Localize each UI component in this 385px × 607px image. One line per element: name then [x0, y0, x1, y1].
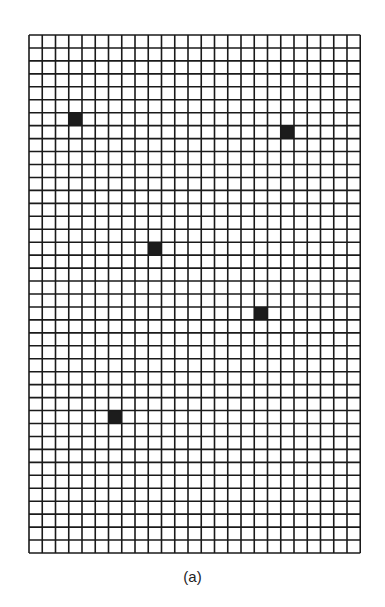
- figure-caption: (a): [0, 568, 385, 585]
- marked-cell: [109, 411, 122, 424]
- marked-cell: [254, 307, 267, 320]
- marked-cell: [281, 126, 294, 139]
- grid-diagram: [28, 34, 361, 554]
- marked-cell: [148, 242, 161, 255]
- marked-cell: [69, 113, 82, 126]
